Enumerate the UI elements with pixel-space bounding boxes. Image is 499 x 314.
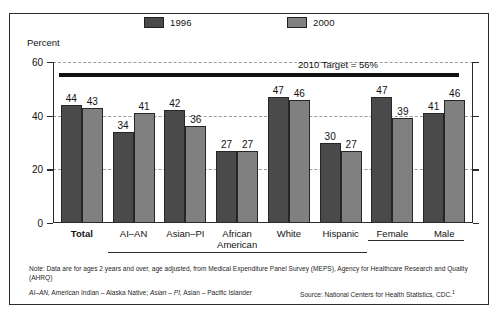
bar-group: 4739 [371, 62, 413, 223]
footnote-note: Note: Data are for ages 2 years and over… [29, 264, 469, 282]
bar-value-label: 27 [221, 139, 232, 150]
y-tick-right-60 [473, 62, 479, 63]
y-tick-right-0 [473, 223, 479, 224]
abbr-aian-def: American Indian – Alaska Native; [50, 289, 150, 296]
y-tick-0 [47, 223, 53, 224]
x-axis-label: Female [377, 228, 409, 239]
legend-item-2000: 2000 [287, 17, 335, 28]
bar[interactable]: 42 [164, 110, 185, 223]
y-tick-right-40 [473, 116, 479, 117]
x-axis-label: Male [434, 228, 455, 239]
bar[interactable]: 34 [113, 132, 134, 223]
bar[interactable]: 41 [423, 113, 444, 223]
source-text: Source: National Centers for Health Stat… [300, 291, 452, 298]
bar[interactable]: 30 [320, 143, 341, 224]
plot-area: 02040602010 Target = 56%4443344142362727… [53, 62, 473, 223]
bar-value-label: 46 [294, 88, 305, 99]
bar[interactable]: 43 [82, 108, 103, 223]
bar[interactable]: 36 [185, 126, 206, 223]
x-axis-labels: TotalAI–ANAsian–PIAfricanAmericanWhiteHi… [53, 228, 473, 254]
abbr-aian-term: AI–AN, [29, 289, 50, 296]
bar[interactable]: 46 [289, 100, 310, 223]
bar-value-label: 27 [242, 139, 253, 150]
bar-group: 4236 [164, 62, 206, 223]
bar-value-label: 41 [139, 101, 150, 112]
bar-group: 2727 [216, 62, 258, 223]
right-axis-line [472, 62, 473, 223]
chart-legend: 1996 2000 [9, 13, 489, 35]
x-axis-label: AfricanAmerican [217, 228, 257, 250]
bar-value-label: 27 [346, 139, 357, 150]
y-axis-title: Percent [27, 37, 60, 48]
bar-value-label: 30 [325, 131, 336, 142]
footnote-abbreviations: AI–AN, American Indian – Alaska Native; … [29, 288, 329, 297]
bar-value-label: 34 [118, 120, 129, 131]
abbr-asianpi-term: Asian – PI, [150, 289, 182, 296]
bar-group: 4146 [423, 62, 465, 223]
plot-inner: 02040602010 Target = 56%4443344142362727… [53, 62, 473, 223]
footnote-source: Source: National Centers for Health Stat… [300, 288, 480, 299]
bar[interactable]: 39 [392, 118, 413, 223]
bar-value-label: 47 [376, 85, 387, 96]
bar-value-label: 43 [87, 96, 98, 107]
y-tick-label-0: 0 [37, 218, 43, 229]
bar[interactable]: 46 [444, 100, 465, 223]
bar-value-label: 47 [273, 85, 284, 96]
bar-value-label: 44 [66, 93, 77, 104]
legend-swatch-2000 [287, 17, 307, 28]
bar[interactable]: 47 [371, 97, 392, 223]
x-axis-label: Asian–PI [166, 228, 204, 239]
bar-value-label: 46 [449, 88, 460, 99]
x-axis-label: Hispanic [322, 228, 358, 239]
race-ethnicity-bracket [108, 252, 367, 253]
bar[interactable]: 44 [61, 105, 82, 223]
y-tick-right-20 [473, 169, 479, 170]
bar-group: 3027 [320, 62, 362, 223]
y-tick-label-60: 60 [32, 57, 43, 68]
bar-value-label: 36 [190, 114, 201, 125]
bar-group: 4443 [61, 62, 103, 223]
bar[interactable]: 27 [341, 151, 362, 223]
y-tick-label-20: 20 [32, 164, 43, 175]
bar-value-label: 39 [397, 106, 408, 117]
legend-item-1996: 1996 [144, 17, 192, 28]
legend-swatch-1996 [144, 17, 164, 28]
abbr-asianpi-def: Asian – Pacific Islander [182, 289, 252, 296]
source-marker: 1 [452, 289, 455, 295]
bar-value-label: 41 [428, 101, 439, 112]
y-tick-label-40: 40 [32, 110, 43, 121]
bar-group: 3441 [113, 62, 155, 223]
bar-value-label: 42 [169, 98, 180, 109]
legend-label-1996: 1996 [170, 18, 192, 28]
x-axis-label: White [277, 228, 301, 239]
x-axis-label: Total [71, 228, 93, 239]
bar[interactable]: 47 [268, 97, 289, 223]
chart-figure: 1996 2000 Percent 02040602010 Target = 5… [0, 0, 499, 314]
x-axis-line [53, 222, 473, 223]
y-axis-line [53, 62, 54, 223]
legend-label-2000: 2000 [313, 18, 335, 28]
sex-bracket [368, 240, 464, 241]
bar[interactable]: 27 [216, 151, 237, 223]
x-axis-label: AI–AN [120, 228, 147, 239]
bar-group: 4746 [268, 62, 310, 223]
bar[interactable]: 27 [237, 151, 258, 223]
bar[interactable]: 41 [134, 113, 155, 223]
